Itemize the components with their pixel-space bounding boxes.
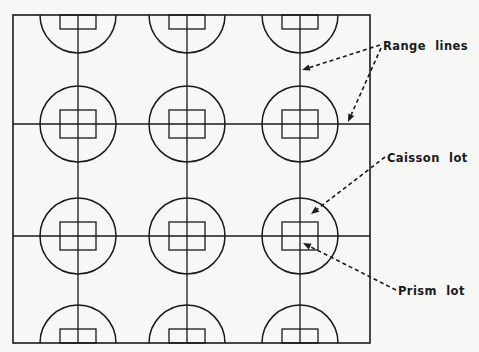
label-prism-lot: Prism lot [398, 284, 465, 298]
label-range-lines: Range lines [383, 39, 468, 53]
leader-arrow-range-lines [302, 45, 380, 71]
caisson-lots-group [40, 15, 338, 343]
range-lines-group [13, 15, 370, 343]
leader-line [310, 247, 396, 290]
frame-border [13, 15, 370, 343]
leader-line [351, 48, 381, 115]
prism-lots-group [60, 15, 318, 343]
diagram-canvas: Range lines Caisson lot Prism lot [0, 0, 479, 352]
leader-arrows-group [302, 45, 396, 290]
caisson-prism-layout-diagram: Range lines Caisson lot Prism lot [0, 0, 479, 352]
outer-frame [13, 15, 370, 343]
leader-arrow-caisson-lot [311, 157, 385, 214]
arrowhead-icon [348, 113, 354, 122]
label-caisson-lot: Caisson lot [387, 151, 468, 165]
arrowhead-icon [311, 207, 319, 214]
arrowhead-icon [302, 65, 311, 71]
leader-arrow-range-lines [348, 48, 381, 122]
arrowhead-icon [303, 243, 312, 249]
leader-line [317, 157, 385, 209]
